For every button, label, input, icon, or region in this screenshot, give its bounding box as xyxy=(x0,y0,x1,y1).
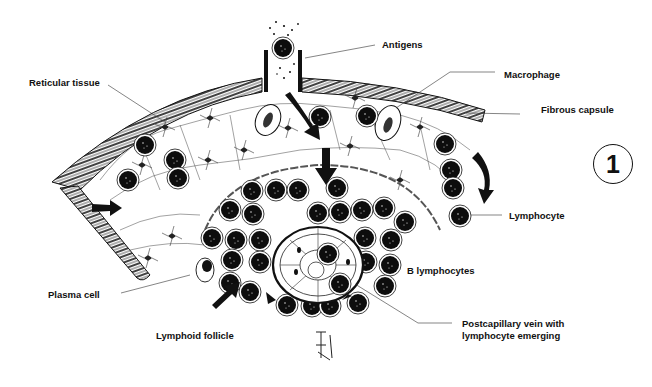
label-fibrous-capsule: Fibrous capsule xyxy=(541,104,614,116)
leader-reticular-tissue xyxy=(108,85,165,122)
label-postcapillary-vein-line1: Postcapillary vein with xyxy=(462,318,564,330)
lymph-node-diagram: Antigens Reticular tissue Macrophage Fib… xyxy=(0,0,652,387)
artist-signature xyxy=(316,332,332,360)
leader-plasma-cell xyxy=(121,275,190,293)
label-reticular-tissue: Reticular tissue xyxy=(29,77,100,89)
afferent-vessel xyxy=(266,21,300,92)
arrow-follicle xyxy=(212,282,240,309)
plasma-cell xyxy=(196,258,214,282)
label-plasma-cell: Plasma cell xyxy=(48,289,100,301)
label-postcapillary-vein-line2: lymphocyte emerging xyxy=(462,330,560,342)
label-lymphocyte: Lymphocyte xyxy=(509,210,565,222)
label-macrophage: Macrophage xyxy=(504,69,560,81)
arrow-vein-left xyxy=(266,292,276,304)
figure-number-badge: 1 xyxy=(593,144,633,184)
leader-antigens xyxy=(305,45,375,58)
label-b-lymphocytes: B lymphocytes xyxy=(407,265,475,277)
postcapillary-vein xyxy=(273,227,363,303)
label-antigens: Antigens xyxy=(382,39,423,51)
label-lymphoid-follicle: Lymphoid follicle xyxy=(156,330,234,342)
leader-postcapillary-vein xyxy=(355,284,452,323)
arrow-lymphocyte-exit xyxy=(472,152,494,204)
